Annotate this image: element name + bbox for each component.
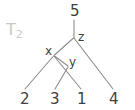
edge-x-to-leaf2 bbox=[25, 56, 54, 89]
node-label-z: z bbox=[78, 31, 84, 43]
tree-name-subscript: 2 bbox=[16, 28, 23, 41]
leaf-label-1: 1 bbox=[77, 92, 87, 107]
phylogenetic-tree-figure: T2 5 z x y 2 3 1 4 bbox=[0, 0, 135, 110]
node-label-x: x bbox=[45, 45, 52, 57]
root-label: 5 bbox=[70, 4, 80, 19]
edge-z-to-x bbox=[55, 38, 74, 55]
tree-name-label: T2 bbox=[6, 22, 23, 40]
edge-y-to-leaf3 bbox=[55, 67, 68, 89]
leaf-label-3: 3 bbox=[50, 92, 60, 107]
node-label-y: y bbox=[69, 56, 76, 68]
leaf-label-2: 2 bbox=[20, 92, 30, 107]
edge-z-to-leaf4 bbox=[74, 38, 113, 89]
leaf-label-4: 4 bbox=[109, 92, 119, 107]
tree-name-base: T bbox=[6, 20, 16, 39]
